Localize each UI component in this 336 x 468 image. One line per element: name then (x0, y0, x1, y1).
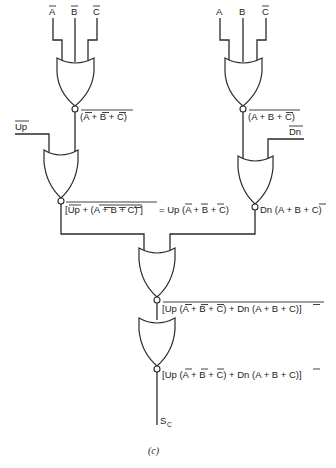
wire-input-c-bar (88, 18, 97, 60)
nor-gate-top-left: A B C (A + B + C) (49, 6, 133, 122)
label-input-b: B (71, 6, 77, 17)
label-input-up: Up (15, 121, 27, 132)
wire-gate2-right-to-gate3 (170, 210, 255, 250)
label-gate2-left-output-eq: = Up (A + B + C) (159, 204, 229, 215)
label-gate2-right-output: Dn (A + B + C) (260, 204, 322, 215)
label-input-c: C (93, 6, 100, 17)
label-input-dn: Dn (289, 126, 301, 137)
nor-gate-combine: [Up (A + B + C) + Dn (A + B + C)] (139, 248, 324, 314)
label-input-a-right: A (216, 6, 223, 17)
label-gate3-output: [Up (A + B + C) + Dn (A + B + C)] (162, 303, 302, 314)
label-input-b-right: B (239, 6, 245, 17)
wire-input-a (220, 18, 229, 60)
wire-input-a-bar (53, 18, 62, 60)
label-gate2-left-output-part1: [Up + (A + B + C) ] (65, 204, 143, 215)
label-output-subscript: C (167, 421, 172, 428)
figure-caption: (c) (148, 445, 160, 457)
wire-input-c-bar-right (257, 18, 266, 60)
label-input-a: A (49, 6, 56, 17)
logic-circuit-diagram: A B C (A + B + C) A B C (A + B + C) Up (0, 0, 336, 468)
label-output: S (160, 415, 166, 426)
nor-gate-middle-left: Up [Up + (A + B + C) ] = Up (A + B + C) (15, 112, 229, 215)
nor-gate-invert: [Up (A + B + C) + Dn (A + B + C)] (139, 318, 320, 380)
nor-gate-top-right: A B C (A + B + C) (216, 6, 300, 122)
label-input-c-right: C (262, 6, 269, 17)
nor-gate-middle-right: Dn Dn (A + B + C) (238, 112, 326, 215)
label-gate4-output: [Up (A + B + C) + Dn (A + B + C)] (162, 369, 302, 380)
